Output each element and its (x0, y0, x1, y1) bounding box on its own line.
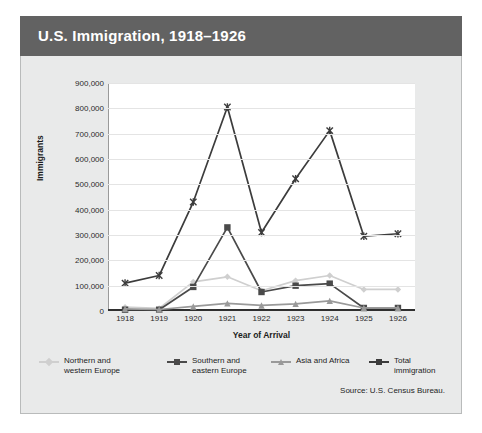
legend-item[interactable]: Northern and western Europe (39, 356, 120, 375)
data-point-marker (190, 198, 196, 206)
gridline (108, 260, 415, 261)
y-tick-label: 0 (100, 307, 104, 316)
x-tick-label: 1919 (150, 314, 168, 323)
data-point-marker (224, 224, 230, 230)
y-tick-label: 600,000 (75, 155, 104, 164)
x-tick-label: 1922 (253, 314, 271, 323)
series-line (125, 227, 398, 309)
gridline (108, 286, 415, 287)
y-tick-label: 100,000 (75, 281, 104, 290)
x-axis-title: Year of Arrival (108, 330, 415, 340)
legend-item[interactable]: Total immigration (369, 356, 447, 375)
y-tick-label: 200,000 (75, 256, 104, 265)
data-point-marker (361, 286, 367, 292)
data-point-marker (292, 175, 298, 183)
data-point-marker (395, 286, 401, 292)
legend-label: Total immigration (394, 356, 447, 375)
data-point-marker (327, 272, 333, 278)
x-tick-label: 1920 (184, 314, 202, 323)
legend-label: Southern and eastern Europe (192, 356, 247, 375)
legend-swatch-icon (369, 357, 389, 367)
x-tick-label: 1924 (321, 314, 339, 323)
x-axis-tick-labels: 191819191920192119221923192419251926 (108, 314, 415, 328)
x-tick-label: 1923 (287, 314, 305, 323)
data-point-marker (258, 289, 264, 295)
chart-legend: Northern and western EuropeSouthern and … (39, 356, 447, 384)
gridline (108, 235, 415, 236)
page-title: U.S. Immigration, 1918–1926 (38, 27, 246, 44)
gridline (108, 210, 415, 211)
y-tick-label: 900,000 (75, 79, 104, 88)
y-tick-label: 400,000 (75, 205, 104, 214)
data-point-marker (224, 103, 230, 111)
source-note: Source: U.S. Census Bureau. (340, 386, 445, 395)
y-axis-title: Immigrants (35, 135, 45, 181)
x-tick-label: 1926 (389, 314, 407, 323)
series-layer (108, 83, 415, 311)
chart-figure: U.S. Immigration, 1918–1926 Immigrants 9… (20, 16, 462, 414)
chart-title-bar: U.S. Immigration, 1918–1926 (20, 16, 462, 56)
y-tick-label: 700,000 (75, 129, 104, 138)
legend-label: Asia and Africa (296, 356, 349, 366)
gridline (108, 134, 415, 135)
series-southern-and-eastern-europe (122, 224, 401, 313)
legend-item[interactable]: Asia and Africa (271, 356, 349, 367)
data-point-marker (224, 274, 230, 280)
legend-item[interactable]: Southern and eastern Europe (167, 356, 247, 375)
gridline (108, 184, 415, 185)
y-tick-label: 800,000 (75, 104, 104, 113)
plot-area (108, 83, 415, 311)
legend-label: Northern and western Europe (64, 356, 120, 375)
x-tick-label: 1925 (355, 314, 373, 323)
gridline (108, 83, 415, 84)
x-tick-label: 1921 (218, 314, 236, 323)
x-tick-label: 1918 (116, 314, 134, 323)
gridline (108, 108, 415, 109)
chart-panel: Immigrants 900,000800,000700,000600,0005… (20, 56, 462, 414)
legend-swatch-icon (39, 357, 59, 367)
gridline (108, 159, 415, 160)
y-axis-tick-labels: 900,000800,000700,000600,000500,000400,0… (54, 83, 104, 311)
legend-swatch-icon (271, 357, 291, 367)
legend-swatch-icon (167, 357, 187, 367)
y-tick-label: 500,000 (75, 180, 104, 189)
y-tick-label: 300,000 (75, 231, 104, 240)
